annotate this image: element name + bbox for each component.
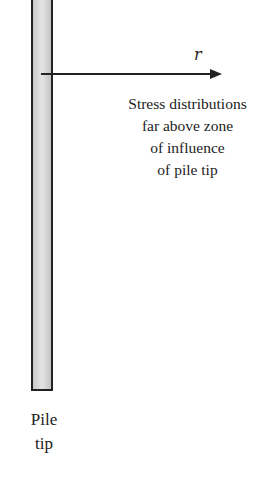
annotation-line: Stress distributions [120,93,255,115]
annotation-line: of pile tip [120,159,255,181]
annotation-line: far above zone [120,115,255,137]
pile-tip-label-line: tip [24,432,64,456]
annotation-line: of influence [120,137,255,159]
stress-annotation: Stress distributions far above zone of i… [120,93,255,181]
pile-tip-label: Pile tip [24,408,64,456]
radial-axis-label: r [194,45,202,64]
pile-tip-label-line: Pile [24,408,64,432]
